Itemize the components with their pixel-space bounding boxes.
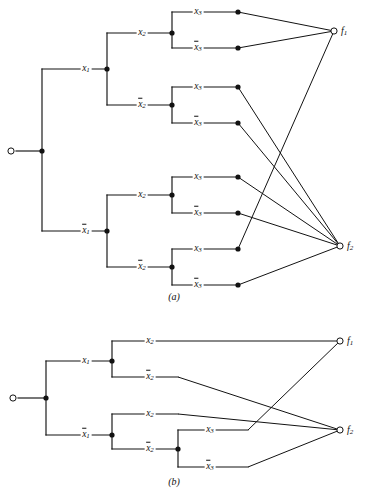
- label-x2-bar: x2: [137, 100, 148, 111]
- x2-a-junction-dot: [169, 30, 174, 35]
- label-x3: x3: [193, 7, 204, 18]
- panel-a-io-nodes: [8, 28, 343, 249]
- label-x3-bar: x3: [193, 280, 204, 291]
- label-x2: x2: [137, 28, 148, 39]
- figure-root: x1 x1 x2 x2 x2 x2 x3 x3 x3 x3 x3 x3 x3 x…: [0, 0, 369, 495]
- label-x3: x3: [193, 244, 204, 255]
- diagram-canvas: [0, 0, 369, 495]
- panel-b-io-nodes: [10, 338, 343, 433]
- panel-caption-b: (b): [168, 476, 180, 487]
- terminal-dot: [235, 246, 240, 251]
- label-x2-bar: x2: [145, 444, 156, 455]
- label-x3: x3: [193, 172, 204, 183]
- root-input-node: [8, 148, 14, 154]
- label-x3-bar: x3: [205, 462, 216, 473]
- label-x3-bar: x3: [193, 208, 204, 219]
- output-label-f2: f2: [347, 240, 353, 253]
- edge-term2-to-f1: [238, 31, 334, 48]
- root-junction-dot: [43, 395, 48, 400]
- edge-term8-to-f2: [238, 246, 340, 285]
- label-x2-bar: x2: [145, 372, 156, 383]
- x1-junction-dot: [104, 66, 109, 71]
- label-x2: x2: [137, 190, 148, 201]
- terminal-dot: [235, 282, 240, 287]
- output-label-f1: f1: [341, 25, 347, 38]
- label-x1: x1: [81, 356, 92, 367]
- x2-c-junction-dot: [169, 192, 174, 197]
- output-node-f1: [337, 338, 343, 344]
- label-x1-bar: x1: [81, 430, 92, 441]
- label-x3-bar: x3: [193, 43, 204, 54]
- label-x2: x2: [145, 336, 156, 347]
- label-x1: x1: [81, 64, 92, 75]
- label-x3: x3: [193, 82, 204, 93]
- edge-b-x3-to-f1: [248, 341, 340, 430]
- terminal-dot: [235, 9, 240, 14]
- x1bar-junction-dot: [104, 228, 109, 233]
- output-label-f2: f2: [347, 424, 353, 437]
- root-input-node: [10, 395, 16, 401]
- output-node-f2: [337, 427, 343, 433]
- label-x2-bar: x2: [137, 262, 148, 273]
- terminal-dot: [235, 174, 240, 179]
- label-x3-bar: x3: [193, 118, 204, 129]
- terminal-dot: [235, 210, 240, 215]
- edge-term6-to-f2: [238, 213, 340, 246]
- panel-caption-a: (a): [168, 291, 180, 302]
- edge-term5-to-f2: [238, 177, 340, 246]
- x2-b-junction-dot: [169, 102, 174, 107]
- x1-junction-dot: [109, 358, 114, 363]
- output-node-f2: [337, 243, 343, 249]
- edge-term1-to-f1: [238, 12, 334, 31]
- label-x3: x3: [205, 425, 216, 436]
- edge-b-x3bar-to-f2: [248, 430, 340, 467]
- edge-term4-to-f2: [238, 123, 340, 246]
- terminal-dot: [235, 84, 240, 89]
- label-x1-bar: x1: [81, 226, 92, 237]
- label-x2: x2: [145, 409, 156, 420]
- panel-a-edges: [16, 12, 340, 285]
- x1bar-junction-dot: [109, 432, 114, 437]
- root-junction-dot: [39, 148, 44, 153]
- output-node-f1: [331, 28, 337, 34]
- x2bar-junction-dot: [175, 446, 180, 451]
- x2-d-junction-dot: [169, 264, 174, 269]
- output-label-f1: f1: [347, 335, 353, 348]
- edge-term3-to-f2: [238, 87, 340, 246]
- terminal-dot: [235, 45, 240, 50]
- terminal-dot: [235, 120, 240, 125]
